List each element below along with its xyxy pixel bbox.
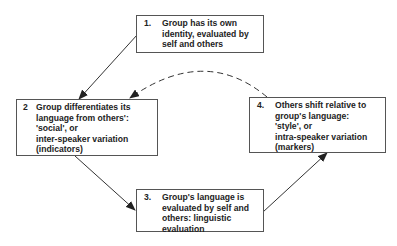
node-number: 2: [23, 102, 36, 155]
node-label: Group's language is evaluated by self an…: [162, 192, 249, 231]
node-label: Group has its own identity, evaluated by…: [162, 18, 249, 52]
diagram-canvas: 1. Group has its own identity, evaluated…: [0, 0, 397, 246]
node-label: Others shift relative to group's languag…: [275, 100, 367, 152]
node-label: Group differentiates its language from o…: [36, 102, 131, 155]
dashed-arrow-4-to-2: [130, 71, 267, 98]
node-4-others-shift: 4. Others shift relative to group's lang…: [249, 97, 386, 153]
arrow-3-to-4: [263, 153, 327, 212]
node-2-group-differentiates: 2 Group differentiates its language from…: [16, 99, 158, 156]
node-number: 4.: [257, 100, 275, 152]
node-3-linguistic-evaluation: 3. Group's language is evaluated by self…: [136, 189, 264, 232]
arrow-2-to-3: [75, 156, 135, 210]
node-number: 3.: [144, 192, 162, 231]
node-number: 1.: [144, 18, 162, 52]
arrow-1-to-2: [79, 35, 137, 99]
node-1-group-identity: 1. Group has its own identity, evaluated…: [136, 15, 264, 53]
